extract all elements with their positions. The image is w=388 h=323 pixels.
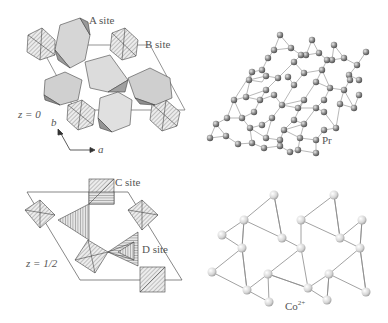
label-co2plus: Co2+	[285, 300, 305, 312]
panel-pr-network: Pr	[194, 0, 388, 160]
axis-arrows	[58, 129, 95, 153]
panel-co-network: Co2+	[194, 160, 388, 323]
polyhedra-z-half-diagram	[0, 160, 194, 323]
co-atom-network	[194, 160, 388, 323]
label-z-half: z = 1/2	[26, 258, 57, 269]
label-b-site: B site	[145, 39, 170, 50]
pr-atoms	[207, 32, 369, 156]
axis-label-b: b	[51, 117, 57, 128]
label-a-site: A site	[89, 15, 114, 26]
panel-z0-polyhedra: A site B site z = 0 b a	[0, 0, 194, 160]
panel-z-half-polyhedra: C site D site z = 1/2	[0, 160, 194, 323]
axis-label-a: a	[98, 144, 104, 155]
label-z0: z = 0	[18, 109, 41, 120]
co-atoms	[208, 191, 371, 307]
co-symbol: Co	[285, 300, 298, 312]
label-c-site: C site	[115, 177, 140, 188]
pr-atom-network	[194, 0, 388, 160]
pr-bonds	[210, 35, 366, 153]
label-d-site: D site	[142, 244, 168, 255]
co-charge: 2+	[298, 299, 305, 307]
co-bonds	[212, 195, 366, 302]
label-pr: Pr	[322, 135, 332, 146]
c-site-squares	[25, 179, 165, 292]
